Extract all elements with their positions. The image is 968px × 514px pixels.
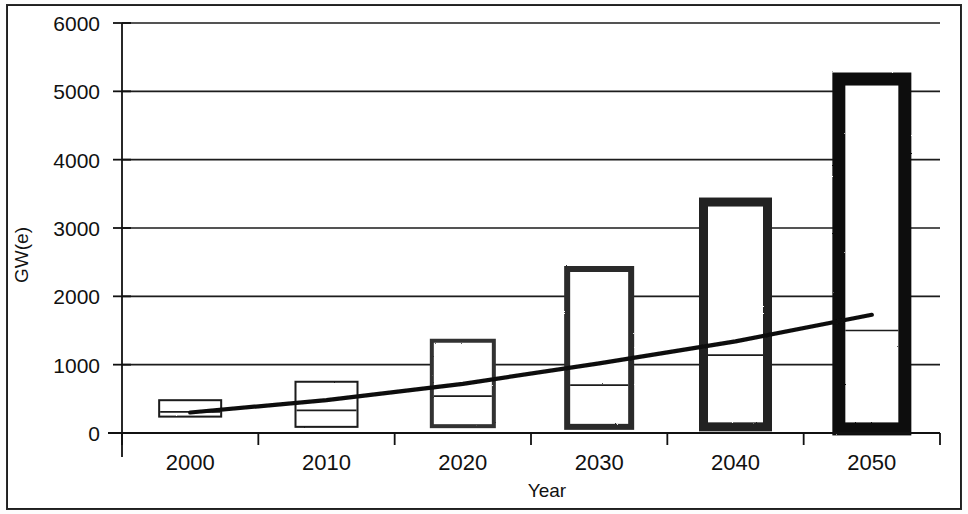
x-tick-label: 2010 — [302, 450, 351, 475]
y-axis-title: GW(e) — [11, 227, 32, 283]
x-tick-label: 2040 — [711, 450, 760, 475]
range-bar-2010 — [296, 382, 358, 427]
y-tick-label: 1000 — [53, 354, 100, 377]
x-tick-label: 2020 — [438, 450, 487, 475]
x-tick-label: 2030 — [575, 450, 624, 475]
range-bar-2030 — [567, 269, 631, 427]
range-bar-2040 — [704, 202, 768, 427]
bar-body — [704, 202, 768, 427]
y-tick-label: 6000 — [53, 12, 100, 35]
bar-body — [296, 382, 358, 427]
x-axis — [108, 433, 940, 445]
x-axis-title: Year — [528, 480, 567, 501]
x-axis-tick-labels: 200020102020203020402050 — [166, 450, 897, 475]
bar-body — [567, 269, 631, 427]
chart-figure: 0100020003000400050006000 20002010202020… — [0, 0, 968, 514]
y-tick-label: 2000 — [53, 285, 100, 308]
x-tick-label: 2050 — [847, 450, 896, 475]
y-axis-tick-labels: 0100020003000400050006000 — [53, 12, 100, 445]
range-bar-chart: 0100020003000400050006000 20002010202020… — [0, 0, 968, 514]
y-tick-label: 4000 — [53, 149, 100, 172]
y-tick-label: 5000 — [53, 80, 100, 103]
bar-body — [839, 79, 905, 429]
y-tick-label: 3000 — [53, 217, 100, 240]
range-bars — [159, 79, 905, 429]
range-bar-2050 — [839, 79, 905, 429]
y-axis-tickmarks — [113, 23, 131, 457]
y-tick-label: 0 — [88, 422, 100, 445]
x-tick-label: 2000 — [166, 450, 215, 475]
